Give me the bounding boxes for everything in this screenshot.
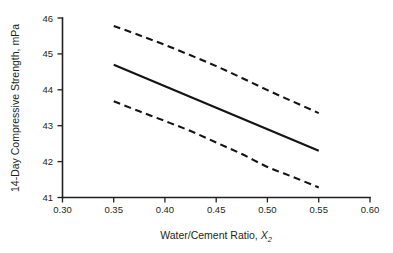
x-axis-title-subscript: 2 xyxy=(267,235,273,244)
y-tick-label: 43 xyxy=(42,120,53,131)
y-axis-tick-labels: 46 45 44 43 42 41 xyxy=(42,13,53,204)
x-axis-tick-labels: 0.30 0.35 0.40 0.45 0.50 0.55 0.60 xyxy=(53,204,379,215)
x-tick-label: 0.45 xyxy=(207,204,226,215)
y-axis-title: 14-Day Compressive Strength, mPa xyxy=(9,24,21,192)
y-axis-group: 46 45 44 43 42 41 14-Day Compressive Str… xyxy=(9,13,63,204)
chart-canvas: 46 45 44 43 42 41 14-Day Compressive Str… xyxy=(0,0,393,253)
lower-confidence-limit-line xyxy=(114,101,319,187)
y-tick-label: 42 xyxy=(42,156,53,167)
x-axis-group: 0.30 0.35 0.40 0.45 0.50 0.55 0.60 Water… xyxy=(53,198,379,245)
x-tick-label: 0.40 xyxy=(156,204,175,215)
fitted-regression-line xyxy=(114,65,319,151)
regression-confidence-band-chart: 46 45 44 43 42 41 14-Day Compressive Str… xyxy=(0,0,393,253)
x-tick-label: 0.50 xyxy=(258,204,277,215)
y-tick-label: 46 xyxy=(42,13,53,24)
x-tick-label: 0.55 xyxy=(309,204,328,215)
x-tick-label: 0.30 xyxy=(53,204,72,215)
y-tick-label: 44 xyxy=(42,84,53,95)
upper-confidence-limit-line xyxy=(114,26,319,113)
x-axis-title-text: Water/Cement Ratio, xyxy=(160,229,261,241)
y-tick-label: 45 xyxy=(42,48,53,59)
y-tick-label: 41 xyxy=(42,192,53,203)
x-tick-label: 0.35 xyxy=(104,204,123,215)
data-series-group xyxy=(114,26,319,188)
x-tick-label: 0.60 xyxy=(361,204,380,215)
x-axis-title: Water/Cement Ratio, X2 xyxy=(160,229,273,244)
